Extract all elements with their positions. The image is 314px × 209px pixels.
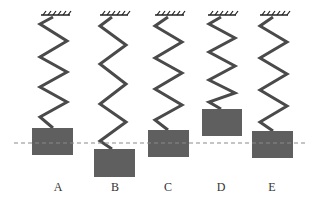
spring — [260, 17, 287, 131]
spring — [100, 17, 126, 149]
label-b: B — [105, 180, 125, 195]
spring-system-e — [252, 11, 293, 158]
spring-system-a — [32, 11, 73, 155]
ceiling-hatch — [235, 11, 238, 15]
label-e: E — [262, 180, 282, 195]
block — [32, 128, 73, 155]
label-c: C — [158, 180, 178, 195]
block — [202, 109, 242, 136]
ceiling-hatch — [287, 11, 290, 15]
spring — [209, 17, 235, 109]
block — [94, 149, 135, 177]
spring-system-c — [148, 11, 189, 157]
label-d: D — [211, 180, 231, 195]
ceiling-hatch — [127, 11, 130, 15]
spring-diagram — [0, 0, 314, 209]
spring — [155, 17, 182, 130]
spring-system-b — [94, 11, 135, 177]
block — [252, 131, 293, 158]
label-a: A — [48, 180, 68, 195]
spring-system-d — [202, 11, 242, 136]
spring — [40, 17, 67, 128]
